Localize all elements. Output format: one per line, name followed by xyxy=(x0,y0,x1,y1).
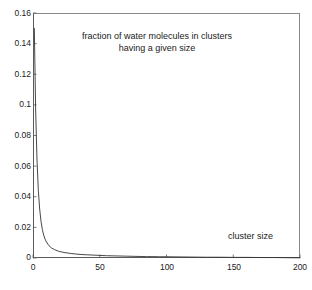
x-axis-tick-label: 0 xyxy=(31,263,36,272)
chart-description-line-2: having a given size xyxy=(57,42,257,54)
x-axis-title-annotation: cluster size xyxy=(228,230,273,242)
x-axis-tick-label: 200 xyxy=(293,263,307,272)
x-axis-tick-label: 150 xyxy=(227,263,241,272)
chart-description-annotation: fraction of water molecules in clusters … xyxy=(57,30,257,54)
chart-container: 0.16 0.14 0.12 0.1 0.08 0.06 0.04 0.02 0… xyxy=(0,0,312,290)
x-axis-tick-label: 50 xyxy=(95,263,104,272)
x-axis-tick-label: 100 xyxy=(160,263,174,272)
chart-description-line-1: fraction of water molecules in clusters xyxy=(82,31,232,41)
